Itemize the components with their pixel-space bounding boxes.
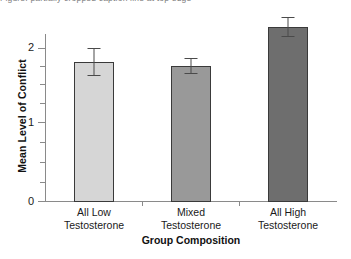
- category-label-line2: Testosterone: [54, 219, 134, 232]
- error-bar-stem: [191, 58, 192, 74]
- y-tick-minor-0-5: [40, 162, 45, 163]
- error-bar-all-low-testosterone: [74, 48, 114, 76]
- y-tick-label-group: 0 1 2: [12, 0, 34, 259]
- error-bar-cap-top: [88, 48, 101, 49]
- x-axis-title: Group Composition: [45, 234, 337, 246]
- error-bar-stem: [94, 48, 95, 76]
- bar-mixed-testosterone: [171, 66, 211, 202]
- y-tick-label-1: 1: [14, 117, 34, 128]
- error-bar-cap-bottom: [282, 36, 295, 37]
- category-label-all-high: All High Testosterone: [248, 206, 328, 232]
- y-tick-1: [38, 122, 45, 123]
- y-tick-minor-1-25: [40, 103, 45, 104]
- error-bar-mixed-testosterone: [171, 58, 211, 74]
- category-label-line2: Testosterone: [151, 219, 231, 232]
- bar-all-high-testosterone: [268, 27, 308, 202]
- category-label-mixed: Mixed Testosterone: [151, 206, 231, 232]
- error-bar-cap-top: [185, 58, 198, 59]
- bar-all-low-testosterone: [74, 62, 114, 202]
- error-bar-cap-top: [282, 17, 295, 18]
- error-bar-stem: [288, 17, 289, 37]
- y-tick-minor-1-5: [40, 84, 45, 85]
- category-label-line1: Mixed: [151, 206, 231, 219]
- y-tick-0: [38, 201, 45, 202]
- error-bar-cap-bottom: [185, 73, 198, 74]
- y-tick-minor-0-25: [40, 182, 45, 183]
- y-tick-minor-0-75: [40, 142, 45, 143]
- category-label-all-low: All Low Testosterone: [54, 206, 134, 232]
- y-tick-label-2: 2: [14, 42, 34, 53]
- y-tick-label-0: 0: [14, 196, 34, 207]
- x-tick-1: [142, 201, 143, 206]
- x-tick-2: [239, 201, 240, 206]
- error-bar-cap-bottom: [88, 75, 101, 76]
- category-label-line1: All High: [248, 206, 328, 219]
- category-label-line2: Testosterone: [248, 219, 328, 232]
- bar-chart: Mean Level of Conflict 0 1 2: [0, 0, 351, 259]
- category-label-line1: All Low: [54, 206, 134, 219]
- y-tick-minor-1-75: [40, 66, 45, 67]
- y-axis-line: [45, 34, 46, 202]
- error-bar-all-high-testosterone: [268, 17, 308, 37]
- y-tick-2: [38, 48, 45, 49]
